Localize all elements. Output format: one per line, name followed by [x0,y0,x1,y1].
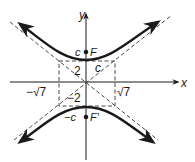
focus-lower-name: F′ [90,111,100,123]
hyperbola-upper-branch [20,22,158,60]
focus-upper-name: F [90,46,98,58]
focus-upper-coord-label: c [75,46,81,58]
focus-upper-point [84,50,89,55]
focus-lower-coord-label: −c [64,111,76,123]
hyperbola-diagram: y x c F −c F′ 2 c −2 −√7 √7 [0,0,195,162]
focus-lower-point [84,115,89,120]
asymptote-negative [10,22,158,140]
label-c-diagonal: c [95,61,101,75]
y-axis-label: y [78,8,86,22]
label-a-positive: 2 [74,64,81,78]
label-b-negative: −√7 [26,85,47,99]
label-a-negative: −2 [67,91,81,105]
x-axis-label: x [180,76,188,90]
label-b-positive: √7 [117,85,131,99]
